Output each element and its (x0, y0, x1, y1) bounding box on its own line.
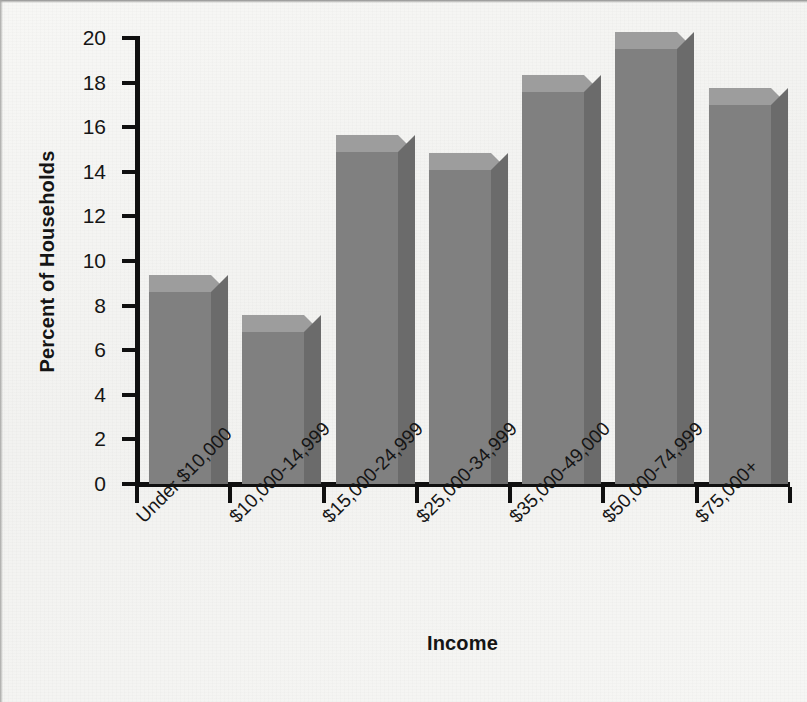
x-tick-mark (135, 487, 139, 503)
bar-chart-figure: Percent of Households 02468101214161820 … (0, 0, 807, 702)
bar-side-bevel (398, 135, 415, 152)
x-axis-title: Income (135, 632, 790, 655)
bar-side-bevel (677, 32, 694, 49)
bar (522, 92, 584, 484)
bar-front-face (522, 92, 584, 484)
bar (336, 152, 398, 484)
bar-side-bevel (304, 315, 321, 332)
x-tick-mark (695, 487, 699, 503)
bar-front-face (429, 170, 491, 484)
x-tick-mark (508, 487, 512, 503)
bar (709, 105, 771, 484)
bar-side-bevel (771, 88, 788, 105)
x-tick-mark (788, 487, 792, 503)
x-tick-mark (601, 487, 605, 503)
x-tick-mark (322, 487, 326, 503)
bar (429, 170, 491, 484)
x-tick-mark (415, 487, 419, 503)
bar-side-bevel (584, 75, 601, 92)
bar-side-bevel (491, 153, 508, 170)
bar (615, 49, 677, 484)
bar-series (0, 0, 807, 702)
bar-side-face (771, 105, 788, 484)
x-tick-mark (228, 487, 232, 503)
bar-front-face (615, 49, 677, 484)
bar-front-face (709, 105, 771, 484)
bar-side-bevel (211, 275, 228, 292)
bar-front-face (336, 152, 398, 484)
